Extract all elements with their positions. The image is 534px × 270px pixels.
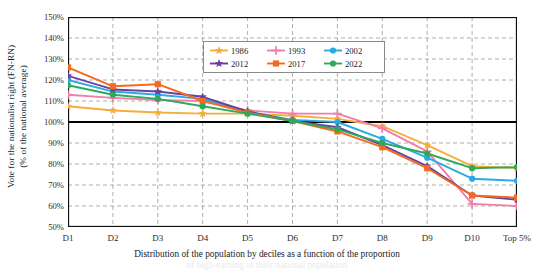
- y-axis-tick-label: 60%: [30, 201, 64, 211]
- legend-swatch-star-icon: [209, 58, 229, 69]
- legend-swatch-plus-icon: [266, 45, 286, 56]
- x-axis-tick-label: Top 5%: [503, 233, 531, 243]
- x-axis-tick-label: D4: [197, 233, 208, 243]
- y-axis-tick-label: 100%: [30, 117, 64, 127]
- x-axis-tick-label: D10: [464, 233, 480, 243]
- legend-item-1993[interactable]: 1993: [266, 45, 323, 56]
- legend-item-2012[interactable]: 2012: [209, 58, 266, 69]
- y-axis-tick-label: 130%: [30, 54, 64, 64]
- x-axis-caption-line1: Distribution of the population by decile…: [134, 249, 400, 259]
- legend-label: 1986: [231, 46, 248, 56]
- legend-label: 2022: [345, 59, 362, 69]
- x-axis-tick-label: D3: [152, 233, 163, 243]
- x-axis-tick-label: D6: [287, 233, 298, 243]
- x-axis-tick-label: D8: [377, 233, 388, 243]
- y-axis-tick-label: 70%: [30, 180, 64, 190]
- legend-swatch-circle-icon: [323, 45, 343, 56]
- legend-label: 2017: [288, 59, 305, 69]
- y-axis-tick-label: 50%: [30, 222, 64, 232]
- legend-label: 2012: [231, 59, 248, 69]
- x-axis-tick-label: D2: [107, 233, 118, 243]
- legend-item-1986[interactable]: 1986: [209, 45, 266, 56]
- y-axis-tick-label: 80%: [30, 159, 64, 169]
- legend-swatch-circle-icon: [323, 58, 343, 69]
- legend-item-2002[interactable]: 2002: [323, 45, 380, 56]
- x-axis-tick-label: D5: [242, 233, 253, 243]
- y-axis-tick-label: 150%: [30, 12, 64, 22]
- chart-figure: Vote for the nationalist right (FN-RN) (…: [0, 0, 534, 270]
- legend-item-2022[interactable]: 2022: [323, 58, 380, 69]
- y-axis-tick-labels: 150%140%130%120%110%100%90%80%70%60%50%: [28, 0, 64, 270]
- legend-swatch-star-icon: [209, 45, 229, 56]
- y-axis-tick-label: 140%: [30, 33, 64, 43]
- x-axis-caption-line2: of high-earning in their national popula…: [0, 260, 534, 270]
- y-axis-title-line1: Vote for the nationalist right (FN-RN): [7, 44, 19, 187]
- y-axis-tick-label: 90%: [30, 138, 64, 148]
- legend-swatch-square-icon: [266, 58, 286, 69]
- x-axis-tick-label: D7: [332, 233, 343, 243]
- y-axis-tick-label: 110%: [30, 96, 64, 106]
- x-axis-tick-label: D9: [422, 233, 433, 243]
- x-axis-caption: Distribution of the population by decile…: [0, 249, 534, 270]
- x-axis-tick-label: D1: [63, 233, 74, 243]
- chart-legend: 198619932002201220172022: [203, 41, 385, 73]
- legend-item-2017[interactable]: 2017: [266, 58, 323, 69]
- legend-label: 2002: [345, 46, 362, 56]
- y-axis-tick-label: 120%: [30, 75, 64, 85]
- legend-label: 1993: [288, 46, 305, 56]
